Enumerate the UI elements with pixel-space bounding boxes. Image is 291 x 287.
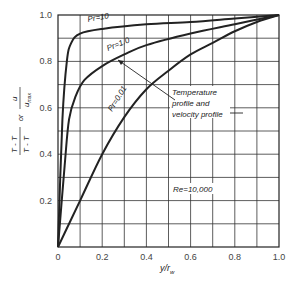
- y-tick-label: 0.4: [39, 149, 52, 159]
- label-pr001: Pr=0.01: [106, 84, 129, 113]
- x-tick-label: 1.0: [273, 252, 286, 262]
- re-label: Re=10,000: [173, 185, 213, 194]
- annotation-line3: velocity profile: [172, 110, 223, 119]
- annotation-line1: Temperature: [172, 88, 218, 97]
- x-tick-label: 0: [55, 252, 60, 262]
- x-tick-label: 0.4: [140, 252, 153, 262]
- x-axis-label: y/rw: [159, 263, 175, 275]
- x-tick-label: 0.6: [184, 252, 197, 262]
- y-tick-label: 0.8: [39, 56, 52, 66]
- annotation-line2: profile and: [171, 99, 210, 108]
- svg-text:T - T: T - T: [22, 135, 31, 153]
- grid: [58, 15, 279, 247]
- y-axis-label: T - T T - T or u umax: [10, 87, 32, 155]
- arrow-head-icon: [118, 60, 124, 65]
- svg-text:u: u: [10, 96, 19, 101]
- x-tick-label: 0.8: [229, 252, 242, 262]
- svg-text:or: or: [17, 114, 24, 121]
- svg-text:umax: umax: [22, 93, 32, 107]
- y-tick-label: 0.6: [39, 103, 52, 113]
- label-pr10: Pr=10: [87, 11, 110, 24]
- svg-text:T - T: T - T: [10, 135, 19, 153]
- y-tick-label: 1.0: [39, 10, 52, 20]
- y-tick-label: 0.2: [39, 196, 52, 206]
- x-tick-label: 0.2: [96, 252, 109, 262]
- chart: 00.20.40.60.81.00.20.40.60.81.0 Pr=10 Pr…: [0, 0, 291, 287]
